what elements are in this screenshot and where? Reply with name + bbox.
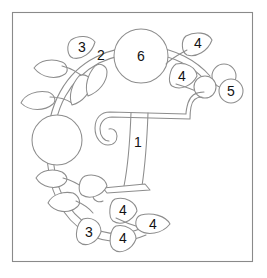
callout-label-3-bottom: 3 (85, 224, 93, 240)
berry-middle (194, 76, 216, 98)
central-shaft-right (142, 113, 148, 186)
lower-left-leaf-upper (36, 170, 67, 187)
upper-left-leaf-mid (21, 91, 55, 109)
lower-left-leaf-mid (48, 192, 80, 211)
callout-label-4-mid-right: 4 (178, 68, 186, 84)
callout-label-4-bottom-lower: 4 (119, 230, 127, 246)
callout-label-4-bottom-upper: 4 (119, 202, 127, 218)
botanical-diagram: 1 2 3 4 4 5 6 4 4 4 3 (0, 0, 267, 278)
callout-label-6: 6 (137, 48, 145, 64)
central-scroll-foot (103, 184, 150, 193)
callout-label-5: 5 (227, 83, 235, 99)
callout-label-2: 2 (97, 47, 105, 63)
callout-label-1: 1 (134, 134, 142, 150)
central-scroll-stem-inner (100, 97, 202, 141)
upper-left-leaf-outer (34, 60, 67, 77)
left-flower-head (32, 115, 82, 165)
callout-label-3-top: 3 (78, 39, 86, 55)
callout-label-4-top-right: 4 (194, 35, 202, 51)
diagram-canvas: 1 2 3 4 4 5 6 4 4 4 3 (0, 0, 267, 278)
central-shaft-left (124, 113, 131, 186)
leaf-lower-diag (79, 175, 107, 197)
callout-label-4-bottom-right: 4 (149, 216, 157, 232)
